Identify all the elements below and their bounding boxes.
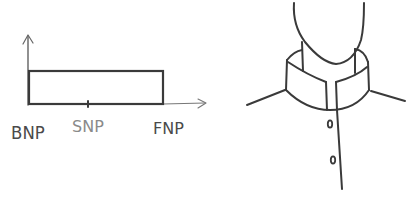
collar-front-left-edge xyxy=(326,82,327,110)
face-outline xyxy=(294,3,364,64)
collar-band-top-right xyxy=(336,67,367,82)
diagram-canvas: BNP SNP FNP xyxy=(0,0,418,199)
neck-line-left xyxy=(302,42,303,71)
button-icon xyxy=(331,156,335,163)
collar-band-top-left xyxy=(288,62,326,82)
collar-top-left xyxy=(287,50,302,60)
collar-profile-rectangle xyxy=(29,71,163,104)
button-icon xyxy=(328,120,332,127)
collar-edge-left xyxy=(286,60,287,90)
fnp-label: FNP xyxy=(153,119,184,138)
shoulder-line-left xyxy=(247,90,285,105)
collar-illustration xyxy=(247,3,405,189)
collar-height-schematic: BNP SNP FNP xyxy=(11,35,206,143)
x-axis xyxy=(163,99,206,108)
snp-label: SNP xyxy=(72,117,104,136)
collar-front-right-edge xyxy=(336,82,337,110)
placket-line xyxy=(337,110,342,189)
bnp-label: BNP xyxy=(11,122,45,143)
shoulder-line-right xyxy=(371,91,405,101)
collar-edge-right xyxy=(368,62,369,90)
